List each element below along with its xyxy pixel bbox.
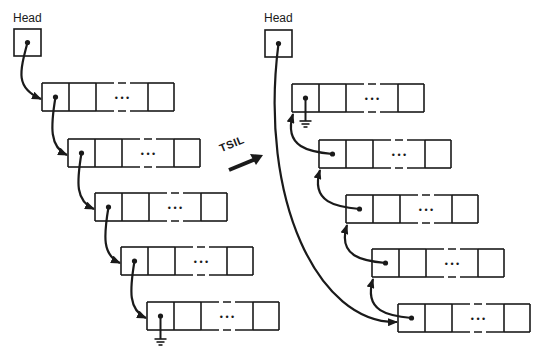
left-node-2: • • • bbox=[68, 139, 200, 167]
right-node-5: • • • bbox=[398, 304, 530, 332]
pointer-arrow bbox=[318, 170, 360, 209]
pointer-arrow bbox=[21, 43, 41, 100]
pointer-arrow bbox=[52, 97, 67, 155]
ellipsis: • • • bbox=[141, 149, 155, 159]
left-node-5: • • • bbox=[147, 302, 279, 345]
right-node-2: • • • bbox=[319, 140, 451, 168]
right-node-1: • • • bbox=[292, 84, 424, 127]
ellipsis: • • • bbox=[194, 257, 208, 267]
left-head-label: Head bbox=[13, 11, 42, 25]
ellipsis: • • • bbox=[445, 259, 459, 269]
original-list: • • •• • •• • •• • •• • • bbox=[14, 29, 279, 345]
ellipsis: • • • bbox=[392, 150, 406, 160]
left-node-3: • • • bbox=[95, 193, 227, 221]
right-node-4: • • • bbox=[372, 249, 504, 277]
ellipsis: • • • bbox=[115, 93, 129, 103]
reversed-list: • • •• • •• • •• • •• • • bbox=[265, 30, 530, 332]
right-node-3: • • • bbox=[346, 195, 478, 223]
right-head-label: Head bbox=[264, 11, 293, 25]
ellipsis: • • • bbox=[168, 203, 182, 213]
pointer-arrow bbox=[371, 279, 412, 318]
ellipsis: • • • bbox=[471, 314, 485, 324]
left-node-1: • • • bbox=[42, 83, 174, 111]
pointer-arrow bbox=[345, 225, 386, 263]
ellipsis: • • • bbox=[220, 312, 234, 322]
ellipsis: • • • bbox=[419, 205, 433, 215]
ellipsis: • • • bbox=[365, 94, 379, 104]
pointer-arrow bbox=[105, 207, 120, 263]
transform-arrow-icon bbox=[229, 154, 263, 170]
linked-list-diagram: • • •• • •• • •• • •• • • • • •• • •• • … bbox=[0, 0, 543, 359]
pointer-arrow bbox=[131, 261, 146, 318]
pointer-arrow bbox=[291, 114, 333, 154]
pointer-arrow bbox=[275, 44, 397, 323]
left-node-4: • • • bbox=[121, 247, 253, 275]
pointer-arrow bbox=[78, 153, 94, 209]
